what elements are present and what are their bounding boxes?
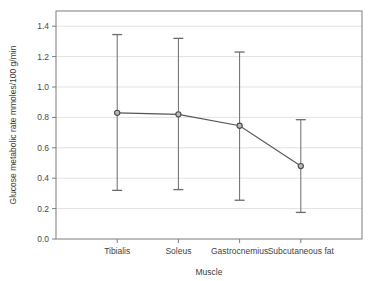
glucose-metabolic-rate-line-chart: 0.00.20.40.60.81.01.21.4 TibialisSoleusG… <box>0 0 373 281</box>
y-tick-label: 0.2 <box>37 204 49 214</box>
x-category-label: Gastrocnemius <box>211 246 268 256</box>
y-tick-label: 1.4 <box>37 21 49 31</box>
data-point-marker <box>176 112 181 117</box>
x-axis-title: Muscle <box>196 267 223 277</box>
x-category-label: Subcutaneous fat <box>268 246 335 256</box>
data-point-marker <box>237 123 242 128</box>
data-point-marker <box>298 163 303 168</box>
y-tick-label: 0.6 <box>37 143 49 153</box>
x-category-label: Tibialis <box>104 246 130 256</box>
y-tick-label: 0.0 <box>37 234 49 244</box>
y-axis-title: Glucose metabolic rate mmoles/100 g/min <box>8 45 18 204</box>
chart-figure: 0.00.20.40.60.81.01.21.4 TibialisSoleusG… <box>0 0 373 281</box>
y-tick-label: 0.4 <box>37 173 49 183</box>
y-tick-label: 1.0 <box>37 82 49 92</box>
x-category-label: Soleus <box>165 246 191 256</box>
y-tick-label: 1.2 <box>37 52 49 62</box>
data-point-marker <box>115 110 120 115</box>
y-tick-label: 0.8 <box>37 112 49 122</box>
